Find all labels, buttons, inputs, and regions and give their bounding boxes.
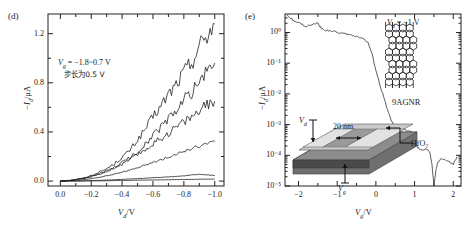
inset-label-oxide: HfO₂ [411, 139, 428, 149]
panel-e-ytick-label: 10⁻³ [267, 120, 281, 129]
panel-d: (d) 0.00.40.81.2 0.0−0.2−0.4−0.6−0.8−1.0… [0, 0, 237, 230]
panel-d-xtick-label: −0.4 [111, 190, 133, 199]
panel-d-xtick-label: −0.6 [142, 190, 164, 199]
panel-d-ytick-label: 0.4 [34, 127, 44, 136]
figure-container: (d) 0.00.40.81.2 0.0−0.2−0.4−0.6−0.8−1.0… [0, 0, 474, 230]
agnr-lattice-icon [386, 22, 417, 88]
panel-e-ylabel: −Id/μA [243, 92, 283, 104]
panel-d-curve [60, 24, 214, 181]
panel-d-xtick-label: −0.8 [173, 190, 195, 199]
panel-e-vd-annotation: Vd = −1 V [387, 18, 419, 30]
panel-e-xtick-label: 0 [365, 190, 387, 199]
panel-d-ytick-label: 0.8 [34, 78, 44, 87]
panel-e-xtick-label: 2 [442, 190, 464, 199]
panel-e-ytick-label: 10⁻⁵ [266, 181, 281, 190]
panel-d-annotation-line1: Vg = −1.8~0.7 V [58, 58, 111, 70]
inset-label-vd: Vd [299, 116, 307, 128]
inset-label-vg: Vg [338, 184, 346, 196]
panel-d-xlabel: Vd/V [118, 207, 135, 219]
panel-d-ylabel: −Id/μA [8, 92, 48, 104]
panel-d-annotation-line2: 步长为0.5 V [58, 70, 111, 79]
panel-d-xtick-label: −0.2 [80, 190, 102, 199]
panel-d-annotation: Vg = −1.8~0.7 V 步长为0.5 V [58, 58, 111, 79]
panel-d-ytick-label: 1.2 [34, 29, 44, 38]
panel-d-xtick-label: 0.0 [49, 190, 71, 199]
panel-e-ytick-label: 10⁰ [270, 27, 281, 36]
panel-e-ytick-label: 10⁻¹ [267, 58, 281, 67]
panel-d-xtick-label: −1.0 [204, 190, 226, 199]
inset-label-length: 20 nm [333, 122, 353, 132]
device-schematic-inset [293, 120, 417, 183]
panel-e: (e) [237, 0, 474, 230]
panel-d-curve [60, 63, 214, 181]
panel-e-ytick-label: 10⁻⁴ [266, 150, 281, 159]
ribbon-label: 9AGNR [392, 97, 420, 108]
panel-e-xlabel: Vg/V [355, 207, 372, 219]
panel-d-ytick-label: 0.0 [34, 176, 44, 185]
panel-e-xtick-label: 1 [404, 190, 426, 199]
panel-e-xtick-label: −2 [288, 190, 310, 199]
